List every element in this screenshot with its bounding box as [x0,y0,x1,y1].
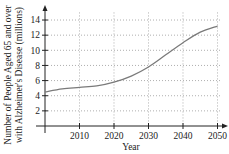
y-axis-title-line1: Number of People Aged 65 and over [3,5,13,145]
x-tick-label: 2040 [174,131,193,141]
x-axis-arrow-icon [222,124,228,129]
y-tick-label: 14 [31,15,41,25]
line-chart: 246810121420102020203020402050 Year Numb… [0,0,229,154]
grid-lines [45,12,221,126]
y-tick-label: 4 [35,91,40,101]
y-tick-label: 6 [35,76,40,86]
y-tick-label: 2 [35,106,40,116]
x-axis-title: Year [122,142,140,152]
y-tick-label: 8 [35,61,40,71]
axes [36,5,228,133]
x-tick-label: 2030 [139,131,158,141]
x-tick-label: 2050 [208,131,227,141]
x-tick-label: 2010 [70,131,89,141]
data-line [45,26,218,92]
y-axis-arrow-icon [43,5,48,11]
y-tick-label: 12 [31,30,41,40]
x-tick-label: 2020 [105,131,124,141]
y-axis-title-line2: with Alzheimer's Disease (millions) [14,7,25,143]
y-tick-label: 10 [31,46,41,56]
